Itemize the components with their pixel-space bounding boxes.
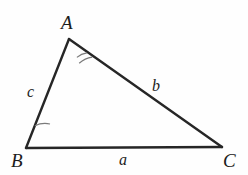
triangle-drawing bbox=[0, 0, 248, 175]
side-label-c: c bbox=[27, 84, 34, 100]
angle-mark-a-arc-outer bbox=[79, 57, 92, 63]
side-a-segment bbox=[26, 147, 222, 148]
triangle-figure: A B C a b c bbox=[0, 0, 248, 175]
vertex-label-b: B bbox=[11, 151, 23, 170]
side-b-segment bbox=[69, 39, 222, 147]
vertex-label-c: C bbox=[223, 151, 236, 170]
side-label-b: b bbox=[152, 78, 160, 94]
side-label-a: a bbox=[119, 152, 127, 168]
angle-mark-b-arc bbox=[35, 123, 50, 125]
angle-mark-a-arc-inner bbox=[77, 53, 87, 58]
vertex-label-a: A bbox=[61, 13, 73, 32]
